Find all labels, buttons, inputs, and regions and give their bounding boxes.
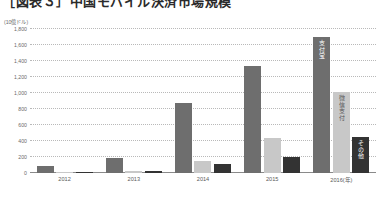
page-title: ［図表３］中国モバイル決済市場規模	[2, 0, 232, 9]
bar[interactable]	[145, 171, 162, 173]
x-axis-tick-label: 2012	[58, 176, 70, 182]
x-axis-tick-label: 2015	[266, 176, 278, 182]
y-axis-tick-label: 1,800	[14, 26, 27, 32]
bar[interactable]	[244, 66, 261, 173]
x-axis-tick-label: 2014	[197, 176, 209, 182]
bar[interactable]	[37, 166, 54, 173]
y-axis-tick-label: 0	[24, 170, 27, 176]
bar[interactable]	[283, 157, 300, 173]
bar[interactable]	[106, 158, 123, 173]
y-axis-tick-label: 600	[18, 122, 27, 128]
series-label-0: 支付宝	[319, 40, 325, 60]
y-axis-tick-label: 800	[18, 106, 27, 112]
series-label-1: 微信支付	[338, 95, 344, 121]
series-label-2: その他	[358, 140, 364, 160]
y-axis-unit-caption: (10億ドル)	[4, 18, 28, 25]
plot-area: 02004006008001,0001,2001,4001,6001,800 支…	[30, 29, 376, 173]
y-axis-tick-label: 400	[18, 138, 27, 144]
bar[interactable]: 支付宝	[313, 37, 330, 173]
y-axis-tick-label: 1,000	[14, 90, 27, 96]
chart-title-strip: ［図表３］中国モバイル決済市場規模	[0, 0, 380, 9]
bar[interactable]	[76, 172, 93, 173]
bar[interactable]	[214, 164, 231, 173]
bar[interactable]: その他	[352, 137, 369, 173]
bar[interactable]	[56, 172, 73, 173]
y-axis-tick-label: 1,200	[14, 74, 27, 80]
y-axis-tick-label: 1,400	[14, 58, 27, 64]
y-axis-tick-label: 200	[18, 154, 27, 160]
bar-group: 支付宝微信支付その他	[307, 29, 376, 173]
bar[interactable]	[194, 161, 211, 173]
bar[interactable]	[264, 138, 281, 173]
bar-group	[168, 29, 237, 173]
bar-group	[30, 29, 99, 173]
bar[interactable]	[175, 103, 192, 173]
x-axis-tick-label: 2016(年)	[330, 176, 352, 184]
bar[interactable]: 微信支付	[333, 92, 350, 173]
bar-group	[238, 29, 307, 173]
y-axis-tick-label: 1,600	[14, 42, 27, 48]
bar[interactable]	[125, 171, 142, 173]
x-axis-labels: 20122013201420152016(年)	[30, 176, 376, 190]
x-axis-tick-label: 2013	[128, 176, 140, 182]
bar-series-container: 支付宝微信支付その他	[30, 29, 376, 173]
bar-group	[99, 29, 168, 173]
